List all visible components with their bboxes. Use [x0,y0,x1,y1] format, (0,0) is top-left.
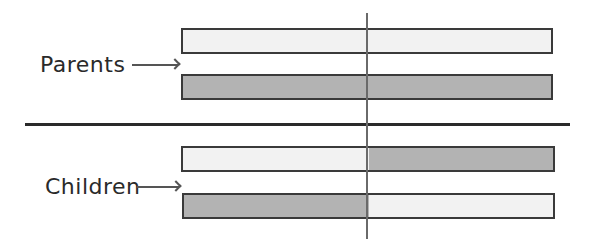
parent-2-left-segment [183,76,369,98]
child-chromosome-1 [181,146,555,172]
parent-1-right-segment [369,30,551,52]
child-2-left-segment [184,195,369,217]
crossover-point-line [366,13,368,239]
parents-label: Parents [40,52,125,77]
child-2-right-segment [369,195,553,217]
children-arrow-icon [137,186,179,188]
group-divider [25,123,570,126]
children-label: Children [45,174,141,199]
parent-1-left-segment [183,30,369,52]
child-chromosome-2 [182,193,555,219]
child-1-right-segment [369,148,553,170]
parent-2-right-segment [369,76,551,98]
child-1-left-segment [183,148,369,170]
parents-arrow-icon [132,64,178,66]
